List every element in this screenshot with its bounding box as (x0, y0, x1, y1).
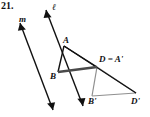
point-A-label: A (63, 36, 69, 45)
line-m-arrow-end-icon (47, 102, 55, 110)
line-ell (44, 10, 86, 106)
segment-Bprime-Dprime (92, 93, 136, 96)
line-ell-body (46, 10, 83, 106)
point-B-prime-label: B' (88, 97, 97, 106)
line-m-label: m (19, 15, 26, 24)
point-D-prime-label: D' (131, 97, 140, 106)
line-ell-arrow-end-icon (77, 98, 85, 106)
line-m-arrow-start-icon (18, 23, 26, 31)
image-triangle (92, 67, 136, 96)
line-m (18, 23, 55, 110)
segment-D-Bprime (92, 67, 97, 96)
point-D-equals-A-prime-label: D = A' (99, 55, 123, 64)
line-ell-label: ℓ (52, 3, 56, 12)
segment-A-D (64, 46, 97, 67)
line-m-body (20, 23, 53, 110)
line-ell-arrow-start-icon (44, 10, 52, 18)
point-B-label: B (50, 72, 56, 81)
segment-B-D (58, 67, 97, 72)
geometry-figure: 21. ℓ m A B D = A' B (0, 0, 150, 117)
